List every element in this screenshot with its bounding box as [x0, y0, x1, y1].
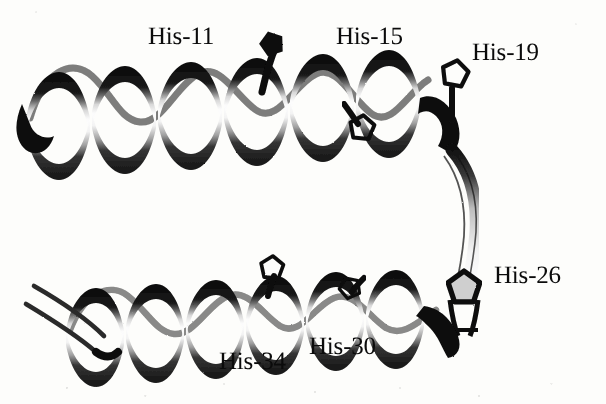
- upper-alpha-helix: [16, 50, 459, 180]
- residue-label-his-34: His-34: [219, 349, 286, 374]
- residue-label-his-26: His-26: [494, 263, 561, 288]
- residue-label-his-15: His-15: [336, 24, 403, 49]
- residue-label-his-11: His-11: [148, 24, 214, 49]
- residue-label-his-19: His-19: [472, 40, 539, 65]
- residue-label-his-30: His-30: [309, 334, 376, 359]
- protein-structure-figure: His-11 His-15 His-19 His-26 His-30 His-3…: [0, 0, 606, 404]
